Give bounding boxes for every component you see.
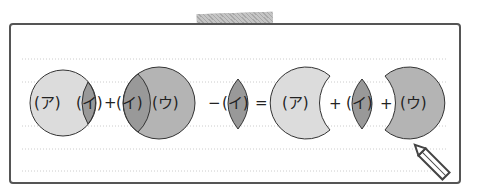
label-i: (イ)	[76, 94, 103, 112]
label-u: (ウ)	[400, 94, 427, 112]
plus-3: +	[380, 95, 393, 113]
plus-2: +	[329, 95, 342, 113]
lens-i: (イ)	[222, 79, 249, 129]
lens-i-2: (イ)	[346, 79, 373, 129]
equals: =	[255, 94, 268, 112]
label-i: (イ)	[346, 94, 373, 112]
label-i: (イ)	[222, 94, 249, 112]
minus: −	[208, 94, 221, 112]
label-a: (ア)	[34, 94, 61, 112]
label-u: (ウ)	[152, 94, 179, 112]
plus-1: +	[104, 94, 117, 112]
label-a: (ア)	[282, 94, 309, 112]
crescent-a: (ア)	[270, 67, 330, 139]
pencil-icon	[411, 141, 449, 179]
crescent-u: (ウ)	[385, 67, 445, 139]
label-i: (イ)	[116, 94, 143, 112]
venn-equation: (ア) (イ) + (イ) (ウ) − (イ) = (ア) + (イ) + (ウ…	[0, 0, 481, 192]
circle-u-with-i: (イ) (ウ)	[116, 67, 195, 139]
